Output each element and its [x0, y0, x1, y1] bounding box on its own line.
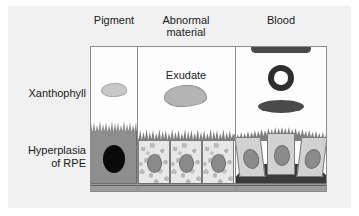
column-blood [235, 47, 327, 191]
rpe-nucleus-pigment [103, 145, 125, 173]
ring-haemorrhage [268, 65, 294, 91]
column-pigment [91, 47, 137, 191]
rpe-nucleus-granular [147, 154, 162, 173]
ring-haemorrhage-core [274, 71, 288, 85]
rpe-cell-granular [138, 140, 170, 186]
column-header-blood: Blood [235, 14, 327, 26]
row-label-hyperplasia-of-rpe: Hyperplasia of RPE [6, 144, 86, 169]
rpe-cell-blood [297, 137, 327, 177]
rpe-cell-pigment [91, 131, 137, 186]
column-divider [137, 47, 138, 191]
preretinal-blood-band [251, 46, 311, 53]
column-header-abnormal-material: Abnormal material [137, 14, 235, 38]
column-abnormal-material: Exudate [137, 47, 235, 191]
rpe-nucleus-granular [179, 154, 194, 173]
row-label-xanthophyll: Xanthophyll [6, 87, 86, 100]
rpe-cell-blood [267, 133, 295, 175]
dot-haemorrhage [258, 100, 304, 113]
exudate-blob [164, 85, 207, 107]
exudate-label: Exudate [137, 69, 235, 81]
microvilli-abnormal-material [137, 127, 235, 141]
bruch-membrane-line [91, 185, 326, 186]
rpe-nucleus-blood [274, 145, 290, 166]
diagram-box: Exudate [90, 46, 327, 192]
rpe-cell-granular [202, 140, 234, 186]
rpe-cell-blood [235, 137, 266, 177]
rpe-nucleus-blood [242, 149, 260, 169]
column-header-pigment: Pigment [90, 14, 138, 26]
rpe-nucleus-granular [211, 154, 226, 173]
figure-root: Pigment Abnormal material Blood Xanthoph… [0, 0, 359, 216]
column-divider [235, 47, 236, 191]
pigment-blob [101, 83, 127, 97]
rpe-nucleus-blood [304, 149, 322, 169]
rpe-cell-granular [170, 140, 202, 186]
